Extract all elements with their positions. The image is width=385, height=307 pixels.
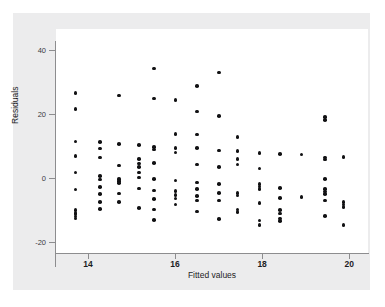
scatter-point (98, 147, 102, 151)
scatter-point (300, 195, 304, 199)
y-axis-line (55, 41, 56, 267)
x-tick-label: 18 (257, 260, 266, 269)
scatter-point (137, 187, 141, 191)
scatter-point (342, 205, 346, 209)
scatter-point (323, 199, 327, 203)
scatter-point (323, 214, 327, 218)
scatter-point (217, 217, 221, 221)
y-tick--20: -20 (49, 242, 55, 243)
y-tick-20: 20 (49, 114, 55, 115)
scatter-point (152, 189, 156, 193)
scatter-point (195, 84, 199, 88)
scatter-point (152, 208, 156, 212)
x-tick-label: 20 (344, 260, 353, 269)
scatter-point (217, 114, 221, 118)
x-axis-line (55, 253, 369, 254)
y-tick-label: 20 (38, 111, 46, 119)
scatter-point (152, 197, 156, 201)
scatter-point (117, 164, 121, 168)
scatter-point (137, 176, 141, 180)
x-tick-20: 20 (349, 254, 350, 259)
plot-panel (56, 29, 368, 253)
scatter-point (217, 165, 221, 169)
x-axis-title: Fitted values (55, 271, 369, 280)
scatter-point (174, 98, 178, 102)
scatter-point (195, 146, 199, 150)
scatter-point (342, 223, 346, 227)
scatter-point (278, 196, 282, 200)
scatter-point (117, 200, 121, 204)
scatter-point (74, 154, 78, 158)
scatter-point (137, 171, 141, 175)
scatter-point (137, 165, 141, 169)
y-tick-label: 40 (38, 47, 46, 55)
x-tick-18: 18 (262, 254, 263, 259)
scatter-point (98, 185, 102, 189)
scatter-point (98, 200, 102, 204)
scatter-point (258, 201, 262, 205)
x-tick-label: 14 (83, 260, 92, 269)
scatter-point (217, 191, 221, 195)
scatter-point (152, 67, 156, 71)
scatter-point (137, 157, 141, 161)
y-axis-title: Residuals (11, 87, 20, 124)
scatter-point (152, 148, 156, 152)
scatter-point (174, 146, 178, 150)
scatter-point (117, 94, 121, 98)
scatter-point (323, 192, 327, 196)
scatter-point (117, 192, 121, 196)
y-tick-40: 40 (49, 50, 55, 51)
scatter-point (117, 181, 121, 185)
scatter-point (278, 212, 282, 216)
y-tick-label: 0 (42, 175, 46, 183)
x-tick-16: 16 (175, 254, 176, 259)
y-tick-0: 0 (49, 178, 55, 179)
scatter-point (137, 206, 141, 210)
scatter-point (217, 182, 221, 186)
scatter-point (278, 219, 282, 223)
scatter-point (342, 155, 346, 159)
scatter-point (152, 218, 156, 222)
scatter-point (258, 187, 262, 191)
scatter-point (323, 177, 327, 181)
scatter-point (195, 187, 199, 191)
scatter-point (98, 140, 102, 144)
scatter-point (117, 142, 121, 146)
scatter-point (174, 132, 178, 136)
scatter-point (258, 151, 262, 155)
scatter-point (137, 143, 141, 147)
scatter-point (278, 152, 282, 156)
scatter-point (278, 186, 282, 190)
scatter-point (98, 192, 102, 196)
scatter-point (152, 161, 156, 165)
x-tick-14: 14 (88, 254, 89, 259)
scatter-point (323, 118, 327, 122)
y-tick-label: -20 (35, 239, 46, 247)
scatter-point (217, 71, 221, 75)
scatter-point (152, 177, 156, 181)
scatter-point (98, 178, 102, 182)
scatter-point (98, 156, 102, 160)
scatter-point (217, 199, 221, 203)
figure-card: 40200-20 14161820 Fitted values Residual… (13, 13, 370, 290)
scatter-point (195, 194, 199, 198)
x-tick-label: 16 (170, 260, 179, 269)
scatter-point (258, 223, 262, 227)
scatter-point (98, 207, 102, 211)
scatter-point (323, 158, 327, 162)
